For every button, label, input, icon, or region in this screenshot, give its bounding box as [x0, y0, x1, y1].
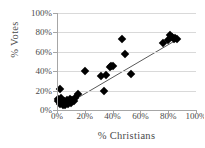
x-axis-tick-labels: 0%20%40%60%80%100%: [0, 112, 204, 128]
y-tick-label: 80%: [0, 28, 52, 37]
x-tick-mark: [196, 110, 197, 114]
x-tick-label: 100%: [186, 112, 205, 121]
x-tick-mark: [140, 110, 141, 114]
y-tick-label: 100%: [0, 9, 52, 18]
x-axis-title: % Christians: [57, 130, 196, 141]
y-axis-line: [57, 13, 58, 111]
x-tick-mark: [113, 110, 114, 114]
gridline: [57, 71, 196, 72]
x-tick-mark: [57, 110, 58, 114]
scatter-chart: % Votes 0%20%40%60%80%100% 0%20%40%60%80…: [0, 0, 204, 148]
y-tick-mark: [53, 91, 57, 92]
y-tick-mark: [53, 32, 57, 33]
gridline: [57, 13, 196, 14]
x-tick-mark: [168, 110, 169, 114]
x-tick-mark: [85, 110, 86, 114]
y-tick-label: 40%: [0, 67, 52, 76]
y-tick-mark: [53, 71, 57, 72]
y-tick-mark: [53, 13, 57, 14]
y-tick-mark: [53, 52, 57, 53]
y-tick-label: 20%: [0, 87, 52, 96]
y-tick-label: 60%: [0, 48, 52, 57]
plot-area: [57, 13, 196, 110]
